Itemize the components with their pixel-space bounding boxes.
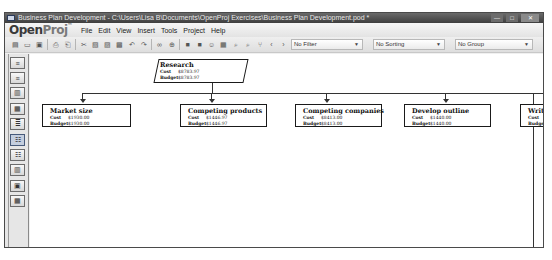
toolbar: ▤ ▭ ▣ ⎙ ⎗ ✂ ▧ ▨ ▩ ↶ ↷ ∞ ⊕ ■ ■ ☺ ▦ ⌕ ⌕ ⑂ … [5,37,543,53]
logo-tm: ™ [68,22,73,28]
menu-file[interactable]: File [81,27,92,34]
outdent-icon[interactable]: ■ [195,40,204,49]
gantt-icon: ≡ [15,60,19,67]
menu-help[interactable]: Help [211,27,225,34]
view-bar: ≡ ≡ ▥ ▦ ≣ ☷ ☷ ▥ ▣ ▦ [5,54,29,248]
wbs-node[interactable]: Write Cost Budget [520,104,543,127]
filter-select[interactable]: No Filter ▼ [291,39,363,50]
menu-tools[interactable]: Tools [161,27,177,34]
new-project-icon[interactable]: ▤ [11,40,20,49]
cut-icon[interactable]: ✂ [79,40,88,49]
view-rbs-button[interactable]: ☷ [10,149,25,161]
arrow-icon [209,99,215,103]
chevron-down-icon: ▼ [524,40,529,49]
resources-icon: ▥ [14,89,21,97]
view-resource-usage-button[interactable]: ▦ [10,195,25,207]
previous-icon[interactable]: ‹ [267,40,276,49]
toolbar-separator [75,39,76,50]
wbs-node[interactable]: Competing products Cost$1446.97 Budget$1… [180,104,267,127]
report-icon: ▥ [14,166,21,174]
node-title: Competing products [188,107,266,115]
arrow-icon [324,99,330,103]
wbs-node[interactable]: Develop outline Cost$1440.00 Budget$1440… [404,104,491,127]
rbs-icon: ☷ [15,151,21,159]
maximize-button[interactable]: □ [506,14,518,22]
view-task-usage-button[interactable]: ▣ [10,180,25,192]
zoom-out-icon[interactable]: ⌕ [243,40,252,49]
format-painter-icon[interactable]: ▩ [115,40,124,49]
group-value: No Group [458,41,484,47]
view-wbs-text-button[interactable]: ≣ [10,118,25,130]
sorting-select[interactable]: No Sorting ▼ [373,39,445,50]
view-report-button[interactable]: ▥ [10,164,25,176]
budget-label: Budget [160,75,178,81]
toolbar-separator [179,39,180,50]
print-preview-icon[interactable]: ⎗ [63,40,72,49]
zoom-in-icon[interactable]: ⌕ [231,40,240,49]
chevron-down-icon: ▼ [354,40,359,49]
view-network-button[interactable]: ≡ [10,72,25,84]
view-gantt-button[interactable]: ≡ [10,57,25,69]
group-select[interactable]: No Group ▼ [455,39,533,50]
application-window: Business Plan Development - C:\Users\Lis… [4,12,544,248]
wbs-node-root-content: Research Cost$8783.97 Budget$8783.97 [158,61,199,81]
wbs-node[interactable]: Competing companies Cost$8413.00 Budget$… [295,104,382,127]
budget-value: $8413.00 [321,121,342,127]
scroll-to-task-icon[interactable]: ⑂ [255,40,264,49]
view-wbs-button[interactable]: ☷ [10,134,25,146]
budget-label: Budget [412,121,430,127]
information-icon[interactable]: ▦ [219,40,228,49]
logo-open: Open [9,23,42,37]
sorting-value: No Sorting [376,41,404,47]
budget-label: Budget [188,121,206,127]
menu-view[interactable]: View [116,27,131,34]
wbs-canvas[interactable]: Research Cost$8783.97 Budget$8783.97 Mar… [30,54,543,247]
node-title: Develop outline [412,107,490,115]
connector-line [82,93,543,94]
view-project-list-button[interactable]: ▦ [10,103,25,115]
budget-label: Budget [528,121,543,127]
wbs-icon: ☷ [15,136,21,144]
menu-bar: OpenProj™ File Edit View Insert Tools Pr… [5,23,543,37]
view-resources-button[interactable]: ▥ [10,87,25,99]
menu: File Edit View Insert Tools Project Help [81,27,225,34]
redo-icon[interactable]: ↷ [139,40,148,49]
print-icon[interactable]: ⎙ [51,40,60,49]
menu-edit[interactable]: Edit [98,27,110,34]
minimize-button[interactable]: — [491,14,503,22]
budget-value: $1446.97 [206,121,227,127]
title-bar[interactable]: Business Plan Development - C:\Users\Lis… [5,13,543,23]
connector-line [212,83,213,93]
menu-insert[interactable]: Insert [137,27,155,34]
app-icon [7,15,15,21]
network-icon: ≡ [15,75,19,82]
task-usage-icon: ▣ [14,182,21,190]
paste-icon[interactable]: ▨ [103,40,112,49]
copy-icon[interactable]: ▧ [91,40,100,49]
openproj-logo: OpenProj™ [5,23,81,37]
project-list-icon: ▦ [14,105,21,113]
resource-usage-icon: ▦ [14,197,21,205]
toolbar-separator [47,39,48,50]
menu-project[interactable]: Project [183,27,205,34]
logo-proj: Proj [42,23,67,37]
node-title: Competing companies [303,107,381,115]
filter-value: No Filter [294,41,317,47]
toolbar-separator [151,39,152,50]
wbs-node[interactable]: Market size Cost$1930.00 Budget$1930.00 [42,104,131,127]
assign-resources-icon[interactable]: ☺ [207,40,216,49]
budget-label: Budget [303,121,321,127]
undo-icon[interactable]: ↶ [127,40,136,49]
save-icon[interactable]: ▣ [35,40,44,49]
unlink-tasks-icon[interactable]: ⊕ [167,40,176,49]
open-project-icon[interactable]: ▭ [23,40,32,49]
close-button[interactable]: ✕ [521,14,539,22]
budget-label: Budget [50,121,68,127]
window-title: Business Plan Development - C:\Users\Lis… [18,14,369,21]
link-tasks-icon[interactable]: ∞ [155,40,164,49]
chevron-down-icon: ▼ [436,40,441,49]
next-icon[interactable]: › [279,40,288,49]
indent-icon[interactable]: ■ [183,40,192,49]
window-controls: — □ ✕ [491,14,539,22]
node-title: Market size [50,107,130,115]
